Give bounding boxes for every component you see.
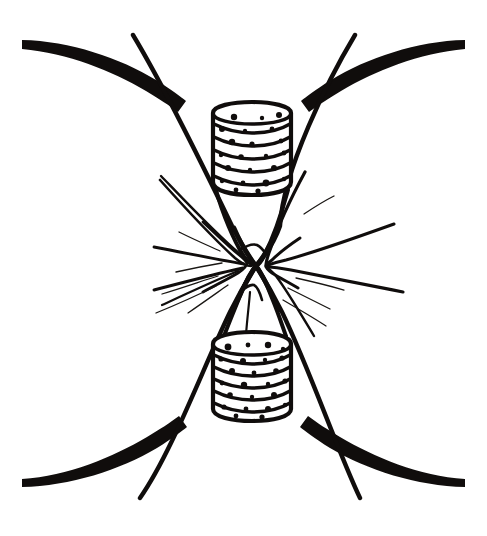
centriole-dot <box>246 343 251 348</box>
centriole-dot <box>231 114 237 120</box>
centriole-dot <box>234 188 239 193</box>
centriole-dot <box>227 392 233 398</box>
centriole-dot <box>263 180 270 187</box>
centriole-dot <box>218 356 223 361</box>
centriole-dot <box>264 154 268 158</box>
centriole-dot <box>240 358 246 364</box>
figure-canvas: Mitotic spindle apparatus with paired ce… <box>0 0 487 536</box>
centriole-dot <box>266 382 270 386</box>
centriole-dot <box>279 139 284 144</box>
centriole-dot <box>248 168 252 172</box>
centriole-dot <box>259 414 264 419</box>
centriole-dot <box>249 141 254 146</box>
centriole-dot <box>221 404 226 409</box>
centriole-dot <box>241 382 247 388</box>
centriole-dot <box>282 151 287 156</box>
centriole-dot <box>265 406 271 412</box>
centriole-dot <box>281 347 285 351</box>
centriole-dot <box>220 179 224 183</box>
centriole-dot <box>252 371 257 376</box>
top-centriole-cylinder <box>213 102 291 195</box>
centriole-dot <box>273 368 279 374</box>
centriole-dot <box>243 129 247 133</box>
centriole-dot <box>225 344 232 351</box>
centriole-dot <box>220 381 225 386</box>
centriole-dot <box>234 414 239 419</box>
centriole-dot <box>271 392 277 398</box>
centriole-dot <box>219 126 225 132</box>
centriole-dot <box>229 368 235 374</box>
centriole-dot <box>282 378 287 383</box>
centriole-dot <box>250 395 254 399</box>
bottom-centriole-cylinder <box>213 332 291 421</box>
centriole-dot <box>270 127 275 132</box>
centriole-dot <box>265 342 271 348</box>
centriole-dot <box>276 112 282 118</box>
centriole-dot <box>238 154 244 160</box>
mitotic-spindle-diagram: Mitotic spindle apparatus with paired ce… <box>0 0 487 536</box>
centriole-dot <box>241 181 246 186</box>
centriole-dot <box>225 165 231 171</box>
centriole-dot <box>244 407 249 412</box>
centriole-dot <box>219 153 223 157</box>
centriole-dot <box>229 139 235 145</box>
centriole-dot <box>279 355 284 360</box>
centriole-dot <box>260 116 264 120</box>
centriole-dot <box>255 188 260 193</box>
centriole-dot <box>271 165 277 171</box>
centriole-dot <box>263 358 267 362</box>
centriole-dot <box>283 403 287 407</box>
centriole-dot <box>282 177 286 181</box>
